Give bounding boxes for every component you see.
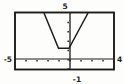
- window-border: [15, 13, 114, 70]
- y-min-label: -1: [73, 75, 81, 84]
- calculator-graph-window: 5 -5 4 -1: [0, 0, 124, 84]
- x-max-label: 4: [117, 55, 122, 64]
- x-min-label: -5: [4, 55, 12, 64]
- plot-figure: 5 -5 4 -1: [0, 0, 124, 84]
- y-max-label: 5: [62, 2, 67, 11]
- function-curve: [44, 13, 88, 48]
